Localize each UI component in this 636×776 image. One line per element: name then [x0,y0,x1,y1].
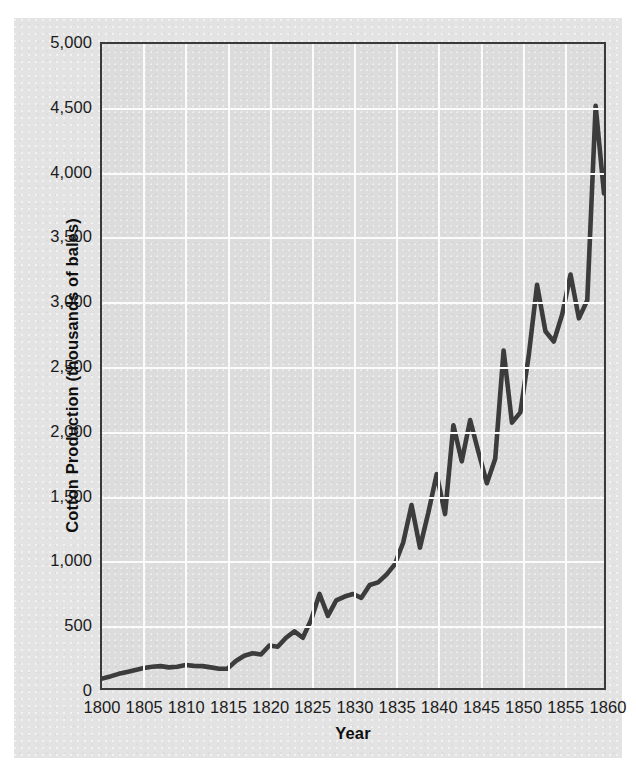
x-axis-tick-label: 1855 [547,698,584,717]
x-axis-tick-label: 1820 [252,698,289,717]
x-axis-tick-label: 1805 [126,698,163,717]
figure-panel: 05001,0001,5002,0002,5003,0003,5004,0004… [14,18,622,758]
gridline-vertical [565,44,567,688]
gridline-vertical [354,44,356,688]
plot-inner [102,44,604,688]
gridline-horizontal [102,173,604,175]
y-axis-tick-label: 0 [83,681,92,700]
x-axis-tick-label: 1845 [463,698,500,717]
x-axis-tick-label: 1815 [210,698,247,717]
gridline-vertical [312,44,314,688]
gridline-vertical [438,44,440,688]
x-axis-tick-label: 1800 [83,698,120,717]
gridline-vertical [228,44,230,688]
gridline-vertical [270,44,272,688]
gridline-vertical [185,44,187,688]
x-axis-tick-label: 1810 [168,698,205,717]
series-svg [102,44,604,688]
x-axis-tick-label: 1825 [294,698,331,717]
gridline-vertical [481,44,483,688]
x-axis-tick-label: 1830 [336,698,373,717]
cotton-production-line [102,106,604,679]
gridline-vertical [143,44,145,688]
gridline-horizontal [102,237,604,239]
x-axis-title: Year [100,724,606,743]
gridline-horizontal [102,108,604,110]
gridline-horizontal [102,497,604,499]
x-axis-tick-label: 1840 [421,698,458,717]
plot-area [100,42,606,690]
gridline-vertical [396,44,398,688]
y-axis-tick-label: 5,000 [50,33,92,52]
gridline-horizontal [102,626,604,628]
x-axis-tick-label: 1835 [379,698,416,717]
x-axis-tick-labels: 1800180518101815182018251830183518401845… [100,698,606,722]
x-axis-tick-label: 1850 [505,698,542,717]
y-axis-title: Cotton Production (thousands of bales) [63,56,82,696]
gridline-horizontal [102,432,604,434]
gridline-horizontal [102,302,604,304]
gridline-vertical [523,44,525,688]
gridline-horizontal [102,367,604,369]
gridline-horizontal [102,561,604,563]
x-axis-tick-label: 1860 [589,698,626,717]
